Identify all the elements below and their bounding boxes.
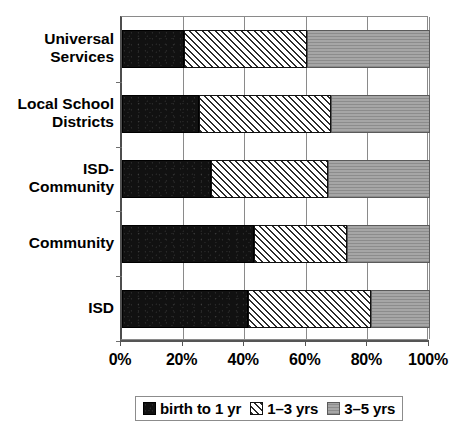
y-axis-label: UniversalServices [0,30,114,66]
legend-label: birth to 1 yr [160,400,241,417]
gray-swatch [327,402,340,415]
x-axis-tick [366,340,367,346]
stacked-bar [122,160,430,198]
y-axis-label-line: Community [0,178,114,196]
legend-item: birth to 1 yr [143,400,241,417]
chart-legend: birth to 1 yr1–3 yrs3–5 yrs [135,396,403,421]
bar-segment [122,30,184,68]
bar-row [122,225,427,263]
y-axis-label-line: Universal [0,30,114,48]
stacked-bar [122,95,430,133]
bar-segment [371,290,430,328]
x-axis-tick-label: 100% [398,351,458,369]
y-axis-label-line: Local School [0,95,114,113]
hatch-swatch [250,402,263,415]
legend-item: 3–5 yrs [327,400,395,417]
y-axis-label-line: ISD [0,299,114,317]
stacked-bar [122,290,430,328]
x-axis-tick-label: 0% [90,351,150,369]
legend-label: 3–5 yrs [344,400,395,417]
bar-row [122,160,427,198]
x-axis-tick-label: 20% [152,351,212,369]
plot-area [120,16,428,340]
y-axis-label-line: Services [0,48,114,66]
legend-label: 1–3 yrs [267,400,318,417]
y-axis-label: Local SchoolDistricts [0,95,114,131]
x-axis-tick-label: 40% [213,351,273,369]
y-axis-label: ISD-Community [0,160,114,196]
y-axis-label: ISD [0,299,114,317]
stacked-bar-chart: UniversalServicesLocal SchoolDistrictsIS… [0,0,461,429]
x-axis-tick [305,340,306,346]
y-axis-tick [116,211,122,212]
bar-segment [331,95,430,133]
bar-segment [347,225,430,263]
bar-segment [248,290,371,328]
y-axis-label: Community [0,234,114,252]
x-axis-tick-label: 60% [275,351,335,369]
legend-item: 1–3 yrs [250,400,318,417]
bar-segment [307,30,430,68]
bar-segment [328,160,430,198]
y-axis-label-line: ISD- [0,160,114,178]
y-axis-tick [116,276,122,277]
stacked-bar [122,30,430,68]
y-axis-tick [116,147,122,148]
bar-segment [211,160,328,198]
bar-segment [122,225,254,263]
y-axis-label-line: Districts [0,113,114,131]
bar-segment [122,160,211,198]
bar-row [122,30,427,68]
bar-segment [254,225,346,263]
x-axis-tick-label: 80% [336,351,396,369]
x-axis-tick [243,340,244,346]
x-axis-tick [120,340,121,346]
bar-segment [184,30,307,68]
solid-black-swatch [143,402,156,415]
stacked-bar [122,225,430,263]
x-axis-line [120,340,429,342]
bar-segment [122,95,199,133]
y-axis-tick [116,82,122,83]
bar-segment [199,95,331,133]
bar-row [122,95,427,133]
x-axis-tick [428,340,429,346]
y-axis-label-line: Community [0,234,114,252]
bar-segment [122,290,248,328]
x-axis-tick [182,340,183,346]
bar-row [122,290,427,328]
